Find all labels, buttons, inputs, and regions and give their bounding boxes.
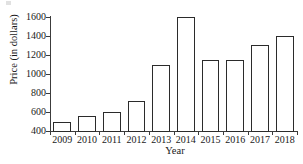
y-axis-label: Price (in dollars)	[8, 0, 19, 110]
y-axis-tick-label: 1400	[18, 31, 46, 41]
bar	[152, 65, 170, 133]
bar	[177, 17, 195, 132]
bar	[276, 36, 294, 132]
chart-screenshot: Price (in dollars) Year 4006008001000120…	[0, 0, 303, 164]
bar	[202, 60, 220, 132]
x-axis-tick-mark	[297, 131, 298, 135]
bar	[103, 112, 121, 132]
bar	[78, 116, 96, 132]
bar	[53, 122, 71, 133]
y-axis-tick-label: 800	[18, 88, 46, 98]
x-axis-tick-label: 2017	[248, 134, 273, 145]
y-axis-tick-label: 1600	[18, 12, 46, 22]
x-axis-tick-label: 2015	[198, 134, 223, 145]
x-axis-tick-label: 2018	[272, 134, 297, 145]
y-axis-tick-label: 1200	[18, 50, 46, 60]
x-axis-tick-label: 2014	[174, 134, 199, 145]
bar	[128, 101, 146, 132]
x-axis-tick-label: 2009	[50, 134, 75, 145]
y-axis-tick-label-group: 4006008001000120014001600	[18, 0, 46, 164]
bar	[226, 60, 244, 132]
x-axis-tick-label: 2012	[124, 134, 149, 145]
x-axis-tick-label: 2010	[75, 134, 100, 145]
x-axis-tick-label: 2013	[149, 134, 174, 145]
y-axis-spine	[50, 16, 51, 132]
x-axis-label: Year	[50, 145, 300, 156]
y-axis-tick-label: 600	[18, 107, 46, 117]
x-axis-tick-label: 2016	[223, 134, 248, 145]
x-axis-tick-label: 2011	[99, 134, 124, 145]
y-axis-tick-label: 1000	[18, 69, 46, 79]
bar	[251, 45, 269, 132]
y-axis-tick-label: 400	[18, 126, 46, 136]
bar-chart-plot-area: Price (in dollars) Year 4006008001000120…	[0, 0, 303, 164]
